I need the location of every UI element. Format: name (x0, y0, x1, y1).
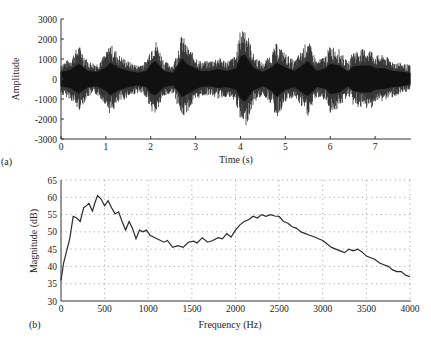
figure: -3000-2000-10000100020003000 01234567 Ti… (0, 0, 431, 341)
x-tick-label: 0 (59, 304, 64, 314)
y-tick-label: 3000 (38, 15, 57, 25)
y-ticks-a: -3000-2000-10000100020003000 (35, 15, 64, 145)
x-tick-label: 3000 (313, 304, 332, 314)
y-tick-label: 1000 (38, 55, 57, 65)
panel-label-a: (a) (1, 156, 12, 168)
y-tick-label: 30 (48, 297, 58, 307)
y-tick-label: 60 (48, 193, 58, 203)
x-tick-label: 1 (103, 142, 108, 152)
x-tick-label: 500 (98, 304, 113, 314)
x-ticks-b: 05001000150020002500300035004000 (59, 304, 420, 314)
x-tick-label: 3 (193, 142, 198, 152)
x-tick-label: 2500 (270, 304, 289, 314)
x-tick-label: 2 (148, 142, 153, 152)
y-tick-label: 35 (48, 279, 58, 289)
y-tick-label: 65 (48, 176, 58, 186)
x-tick-label: 6 (328, 142, 333, 152)
y-tick-label: 0 (52, 75, 57, 85)
x-ticks-a: 01234567 (59, 136, 378, 152)
x-tick-label: 4 (238, 142, 243, 152)
x-tick-label: 2000 (226, 304, 245, 314)
y-tick-label: 55 (48, 210, 58, 220)
x-tick-label: 1500 (182, 304, 201, 314)
x-tick-label: 1000 (139, 304, 158, 314)
y-tick-label: -3000 (35, 135, 57, 145)
y-tick-label: -1000 (35, 95, 57, 105)
y-tick-label: -2000 (35, 115, 57, 125)
y-tick-label: 2000 (38, 35, 57, 45)
waveform-panel: -3000-2000-10000100020003000 01234567 Ti… (1, 15, 411, 169)
waveform-trace (61, 31, 410, 125)
panel-label-b: (b) (29, 319, 41, 331)
y-axis-label-a: Amplitude (10, 57, 21, 100)
y-tick-label: 45 (48, 245, 58, 255)
x-tick-label: 7 (373, 142, 378, 152)
x-tick-label: 5 (283, 142, 288, 152)
y-tick-label: 40 (48, 262, 58, 272)
y-axis-label-b: Magnitude (dB) (28, 209, 40, 273)
y-tick-label: 50 (48, 227, 58, 237)
x-tick-label: 0 (59, 142, 64, 152)
x-tick-label: 4000 (401, 304, 420, 314)
y-ticks-b: 3035404550556065 (48, 176, 58, 307)
x-axis-label-b: Frequency (Hz) (198, 319, 261, 331)
x-tick-label: 3500 (357, 304, 376, 314)
spectrum-panel: 3035404550556065 05001000150020002500300… (28, 176, 420, 332)
x-axis-label-a: Time (s) (219, 154, 253, 166)
grid (61, 180, 410, 301)
